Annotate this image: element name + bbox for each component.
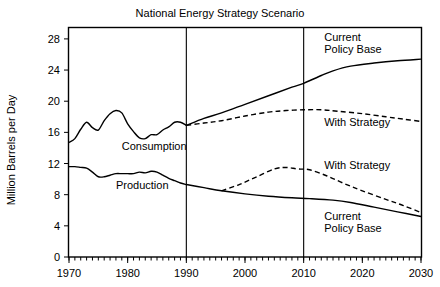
x-tick-label: 1970 [57, 267, 81, 279]
x-tick-label: 2010 [291, 267, 315, 279]
chart-annotations: ConsumptionProductionCurrentPolicy BaseW… [116, 31, 391, 234]
y-axis-tick-labels: 0481216202428 [48, 33, 60, 263]
x-tick-label: 2020 [350, 267, 374, 279]
y-tick-label: 16 [48, 126, 60, 138]
energy-strategy-line-chart: National Energy Strategy Scenario Millio… [0, 0, 440, 287]
x-tick-label: 1990 [174, 267, 198, 279]
reference-lines [186, 28, 303, 257]
annotation-label: With Strategy [324, 116, 391, 128]
chart-title: National Energy Strategy Scenario [136, 7, 305, 19]
annotation-label: Policy Base [324, 43, 381, 55]
x-tick-label: 2000 [233, 267, 257, 279]
y-tick-label: 24 [48, 64, 60, 76]
annotation-label: Production [116, 179, 169, 191]
series-line-0 [69, 111, 186, 143]
x-tick-label: 2030 [409, 267, 433, 279]
y-tick-label: 8 [54, 189, 60, 201]
x-axis-tick-labels: 1970198019902000201020202030 [57, 267, 433, 279]
annotation-label: Current [324, 31, 361, 43]
y-tick-label: 4 [54, 220, 60, 232]
y-tick-label: 12 [48, 158, 60, 170]
x-tick-label: 1980 [115, 267, 139, 279]
annotation-label: Current [324, 210, 361, 222]
y-tick-label: 0 [54, 251, 60, 263]
y-tick-label: 28 [48, 33, 60, 45]
series-line-5 [222, 167, 421, 212]
chart-figure: National Energy Strategy Scenario Millio… [0, 0, 440, 287]
data-series-group [69, 59, 421, 216]
annotation-label: Consumption [122, 140, 187, 152]
y-tick-label: 20 [48, 95, 60, 107]
annotation-label: With Strategy [324, 159, 391, 171]
y-axis-title: Million Barrels per Day [5, 94, 17, 205]
annotation-label: Policy Base [324, 222, 381, 234]
